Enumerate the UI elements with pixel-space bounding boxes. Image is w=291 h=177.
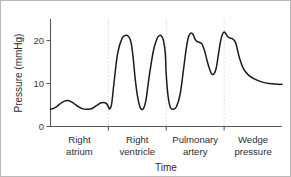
y-tick-label-20: 20 [33, 35, 44, 46]
y-axis-title: Pressure (mmHg) [13, 34, 24, 113]
y-tick-label-10: 10 [33, 78, 44, 89]
y-tick-label-0: 0 [39, 121, 44, 132]
segment-label-group: Right atrium Right ventricle Pulmonary a… [66, 134, 272, 157]
segment-label-pulmonary-artery-line1: Pulmonary [172, 134, 218, 145]
pressure-chart-svg: 0 10 20 Pressure (mmHg) Right atrium Rig… [1, 1, 291, 177]
segment-label-right-atrium-line1: Right [68, 134, 91, 145]
segment-label-pulmonary-artery-line2: artery [183, 146, 208, 157]
segment-label-wedge-pressure-line1: Wedge [238, 134, 268, 145]
segment-label-wedge-pressure-line2: pressure [234, 146, 271, 157]
segment-label-right-ventricle-line1: Right [126, 134, 149, 145]
segment-label-right-atrium-line2: atrium [66, 146, 93, 157]
pressure-waveform-figure: 0 10 20 Pressure (mmHg) Right atrium Rig… [0, 0, 291, 177]
segment-label-right-ventricle-line2: ventricle [119, 146, 155, 157]
x-axis-title: Time [155, 162, 177, 173]
axis-group [47, 19, 283, 131]
